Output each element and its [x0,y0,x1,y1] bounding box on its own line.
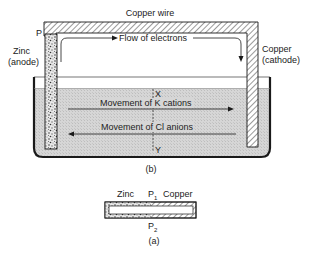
point-p2-label: P2 [148,221,157,235]
figure-b-caption: (b) [146,164,157,174]
copper-label: Copper [262,44,292,54]
zinc-label: Zinc [13,46,30,56]
zinc-electrode [45,34,57,149]
anion-movement-label: Movement of Cl anions [100,122,194,132]
electron-flow-label: Flow of electrons [119,33,187,43]
small-zinc-label: Zinc [117,189,134,199]
point-p1-label: P1 [148,189,157,203]
point-p-label: P [36,28,42,38]
copper-cathode-label: (cathode) [262,55,300,65]
point-y-label: Y [155,145,161,155]
copper-wire-label: Copper wire [126,8,175,18]
cation-movement-label: Movement of K cations [99,98,193,108]
figure-a-caption: (a) [149,236,160,246]
zinc-anode-label: (anode) [8,57,39,67]
electron-flow-arrow [61,38,112,62]
small-copper-label: Copper [163,189,193,199]
